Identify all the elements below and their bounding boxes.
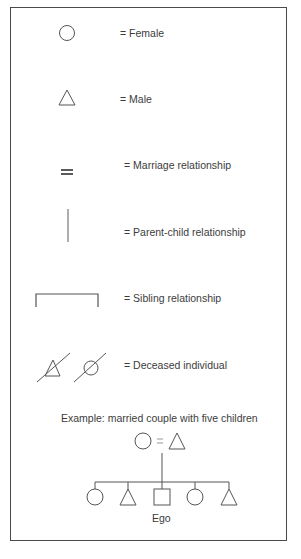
- circle-icon: [60, 26, 75, 41]
- parent-male-triangle-icon: [169, 433, 185, 449]
- child-male-triangle-icon: [120, 489, 136, 505]
- child-female-circle-icon: [87, 489, 103, 505]
- cropped-text-fragment: [0, 552, 301, 559]
- legend-label-parent-child: = Parent-child relationship: [124, 226, 246, 238]
- legend-label-female: = Female: [120, 27, 164, 39]
- ego-label: Ego: [152, 512, 171, 524]
- ego-square-icon: [154, 489, 170, 505]
- example-family-diagram: [87, 433, 237, 505]
- child-male-triangle-icon: [221, 489, 237, 505]
- child-female-circle-icon: [187, 489, 203, 505]
- parent-marriage-equals-icon: [157, 439, 163, 443]
- bracket-icon: [36, 294, 98, 307]
- kinship-symbols-canvas: [0, 0, 301, 559]
- double-line-icon: [61, 170, 73, 174]
- triangle-icon: [59, 90, 75, 105]
- legend-label-male: = Male: [120, 93, 152, 105]
- legend-label-deceased: = Deceased individual: [124, 359, 227, 371]
- legend-label-sibling: = Sibling relationship: [124, 292, 221, 304]
- parent-female-circle-icon: [135, 433, 151, 449]
- example-title: Example: married couple with five childr…: [61, 412, 258, 424]
- slashed-triangle-and-circle-icon: [37, 353, 106, 382]
- legend-label-marriage: = Marriage relationship: [124, 159, 231, 171]
